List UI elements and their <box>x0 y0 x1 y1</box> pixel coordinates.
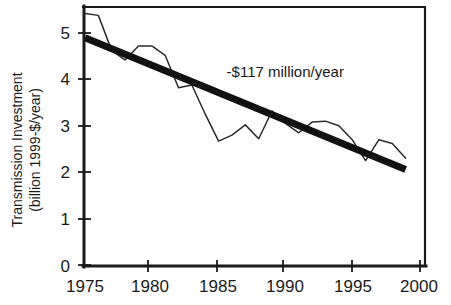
x-tick-label-1995: 1995 <box>334 277 372 296</box>
y-tick-label-1: 1 <box>61 210 70 229</box>
plot-area-background <box>83 6 426 267</box>
y-tick-label-2: 2 <box>61 163 70 182</box>
x-tick-label-1975: 1975 <box>66 277 104 296</box>
y-tick-label-3: 3 <box>61 117 70 136</box>
y-tick-label-4: 4 <box>61 70 70 89</box>
transmission-investment-chart: 5 4 3 2 1 0 1975 1980 1985 1990 1995 200… <box>0 0 451 305</box>
slope-annotation-label: -$117 million/year <box>227 63 344 80</box>
y-tick-label-0: 0 <box>61 257 70 276</box>
x-tick-label-2000: 2000 <box>400 277 438 296</box>
y-tick-label-5: 5 <box>61 24 70 43</box>
x-tick-label-1990: 1990 <box>266 277 304 296</box>
y-axis-title-line1: Transmission Investment <box>9 72 25 227</box>
chart-figure: 5 4 3 2 1 0 1975 1980 1985 1990 1995 200… <box>0 0 451 305</box>
x-tick-label-1980: 1980 <box>131 277 169 296</box>
y-axis-title-line2: (billion 1999-$/year) <box>27 88 43 212</box>
x-tick-label-1985: 1985 <box>199 277 237 296</box>
